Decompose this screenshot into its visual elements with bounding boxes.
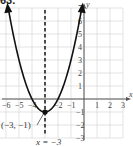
vertex-point bbox=[42, 109, 47, 114]
axis-of-symmetry-label: x = −3 bbox=[36, 138, 61, 147]
y-tick-label: 3 bbox=[78, 56, 82, 65]
y-tick-label: 5 bbox=[78, 30, 82, 39]
x-tick-label: −6 bbox=[2, 101, 11, 110]
y-tick-label: 4 bbox=[78, 43, 82, 52]
vertex-leader bbox=[37, 113, 44, 125]
y-tick-label: −3 bbox=[76, 134, 85, 143]
x-axis-label: x bbox=[128, 90, 133, 99]
x-tick-label: 3 bbox=[121, 101, 125, 110]
x-tick-label: 2 bbox=[108, 101, 112, 110]
y-tick-label: −1 bbox=[76, 108, 85, 117]
x-tick-label: 1 bbox=[95, 101, 99, 110]
vertex-label: (−3, −1) bbox=[1, 121, 31, 130]
y-tick-label: 2 bbox=[78, 69, 82, 78]
x-tick-label: −5 bbox=[15, 101, 24, 110]
x-tick-label: −1 bbox=[67, 101, 76, 110]
y-tick-label: 1 bbox=[78, 82, 82, 91]
y-axis-label: y bbox=[85, 0, 90, 9]
y-tick-label: −2 bbox=[76, 121, 85, 130]
